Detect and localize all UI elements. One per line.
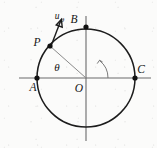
angle-label-theta: θ — [54, 61, 60, 73]
point-marker-B — [83, 24, 88, 29]
vector-label-subscript-theta: θ — [61, 16, 65, 23]
point-marker-A — [34, 75, 39, 80]
point-label-P: P — [32, 36, 40, 48]
geometry-figure: A B C P O θ u θ — [0, 0, 157, 148]
angle-arc-theta — [100, 61, 109, 79]
point-label-B: B — [70, 13, 77, 25]
point-label-O: O — [75, 82, 84, 94]
vector-label-u: u — [55, 11, 60, 21]
point-marker-C — [132, 75, 137, 80]
figure-canvas: A B C P O θ u θ — [0, 0, 157, 148]
point-label-A: A — [28, 81, 37, 93]
tangent-vector-u-theta — [51, 20, 61, 46]
point-marker-P — [47, 43, 52, 48]
point-label-C: C — [137, 63, 145, 75]
